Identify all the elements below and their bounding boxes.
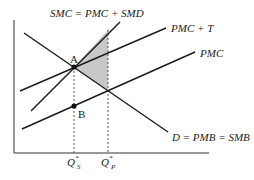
pmc-label: PMC bbox=[199, 47, 224, 59]
smc-label: SMC = PMC + SMD bbox=[50, 7, 144, 19]
svg-text:Q: Q bbox=[101, 156, 109, 168]
qp-tick-label: Q * P bbox=[101, 154, 116, 171]
point-b-label: B bbox=[78, 108, 85, 120]
point-b-marker bbox=[71, 103, 76, 108]
qs-tick-label: Q * S bbox=[67, 154, 81, 171]
svg-text:Q: Q bbox=[67, 156, 75, 168]
point-a-label: A bbox=[70, 53, 78, 65]
svg-text:*: * bbox=[109, 154, 113, 162]
pmc-plus-tax-curve bbox=[20, 28, 166, 91]
svg-text:P: P bbox=[110, 163, 116, 171]
point-a-marker bbox=[71, 64, 76, 69]
externality-diagram: A B SMC = PMC + SMD PMC + T PMC D = PMB … bbox=[0, 0, 254, 180]
demand-label: D = PMB = SMB bbox=[171, 131, 250, 143]
svg-text:S: S bbox=[77, 163, 81, 171]
pmc-plus-tax-label: PMC + T bbox=[170, 22, 214, 34]
svg-text:*: * bbox=[75, 154, 79, 162]
